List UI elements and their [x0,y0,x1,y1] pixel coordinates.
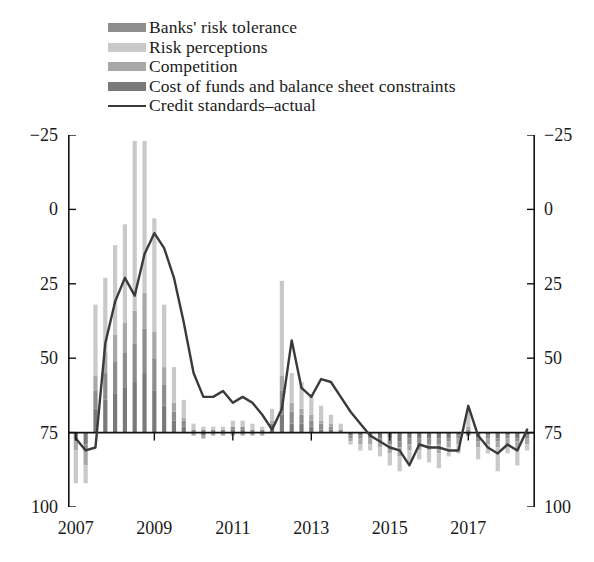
bar-segment [241,427,245,430]
legend-swatch-banks-risk-tolerance [108,23,146,32]
bar-segment [93,376,97,391]
bar-segment [515,450,519,465]
bar-segment [505,436,509,439]
y-axis-label-left: 0 [0,200,58,218]
bar-segment [231,427,235,430]
bar-segment [172,367,176,403]
bar-segment [241,421,245,427]
y-axis-label-right: 75 [544,424,562,442]
bar-segment [329,424,333,427]
x-axis-label: 2015 [360,519,420,537]
bar-segment [309,415,313,421]
bar-segment [437,433,441,439]
legend-swatch-cost-of-funds [108,82,146,91]
bar-segment [427,450,431,462]
bar-segment [93,305,97,376]
bar-segment [142,141,146,293]
bar-segment [299,415,303,424]
x-axis-label: 2013 [281,519,341,537]
bar-segment [476,442,480,448]
bar-segment [447,433,451,439]
bar-segment [427,439,431,445]
bar-segment [398,442,402,448]
plot-svg [68,135,535,507]
bar-segment [84,465,88,483]
legend-item-banks-risk-tolerance: Banks' risk tolerance [108,18,578,38]
bar-segment [133,311,137,344]
bar-segment [103,400,107,433]
bar-segment [152,391,156,433]
bar-segment [113,245,117,334]
bar-segment [211,427,215,430]
bar-segment [201,427,205,430]
bar-segment [280,415,284,433]
bar-segment [260,427,264,430]
bar-segment [329,415,333,424]
legend-item-competition: Competition [108,57,578,77]
bar-segment [133,382,137,433]
bar-segment [113,334,117,361]
bar-segment [152,331,156,358]
y-axis-label-right: 50 [544,349,562,367]
bar-segment [437,439,441,445]
bar-segment [152,358,156,391]
bar-segment [123,352,127,388]
y-axis-label-left: 25 [0,275,58,293]
legend-label-risk-perceptions: Risk perceptions [149,38,268,57]
bar-segment [182,418,186,421]
bar-segment [368,445,372,451]
bar-segment [358,436,362,439]
legend-item-risk-perceptions: Risk perceptions [108,38,578,58]
bar-segment [496,439,500,442]
bar-segment [309,427,313,433]
bar-segment [201,436,205,439]
bar-segment [368,439,372,445]
chart-figure: Banks' risk tolerance Risk perceptions C… [0,0,594,562]
bar-segment [427,433,431,439]
bar-segment [378,433,382,439]
chart-legend: Banks' risk tolerance Risk perceptions C… [108,18,578,116]
bar-segment [496,433,500,439]
bar-segment [182,427,186,433]
y-axis-label-right: −25 [544,126,572,144]
bar-segment [221,427,225,430]
bar-segment [329,427,333,430]
bar-segment [84,433,88,445]
bar-segment [388,453,392,465]
legend-label-cost-of-funds: Cost of funds and balance sheet constrai… [149,77,456,96]
bar-segment [74,442,78,451]
bar-segment [407,433,411,439]
bar-segment [84,450,88,465]
bar-segment [113,394,117,433]
bar-segment [515,439,519,442]
bar-segment [309,421,313,427]
bar-segment [142,373,146,433]
bar-segment [417,450,421,459]
bar-segment [407,445,411,451]
bar-segment [113,361,117,394]
bar-segment [162,406,166,433]
legend-swatch-competition [108,62,146,71]
y-axis-label-left: −25 [0,126,58,144]
legend-item-cost-of-funds: Cost of funds and balance sheet constrai… [108,77,578,97]
bar-segment [103,373,107,400]
bar-segment [142,328,146,373]
y-axis-label-right: 25 [544,275,562,293]
bar-segment [299,424,303,433]
bar-segment [319,406,323,421]
bar-segment [398,433,402,442]
bar-segment [172,403,176,412]
bar-segment [339,424,343,430]
bar-segment [123,322,127,352]
bar-segment [123,388,127,433]
legend-label-competition: Competition [149,57,238,76]
bar-segment [142,293,146,329]
bar-segment [358,445,362,451]
bar-segment [290,412,294,424]
bar-segment [162,305,166,368]
x-axis-label: 2017 [438,519,498,537]
bar-segment [231,421,235,427]
bar-segment [162,385,166,406]
legend-item-credit-standards-actual: Credit standards–actual [108,96,578,116]
bar-segment [525,445,529,451]
